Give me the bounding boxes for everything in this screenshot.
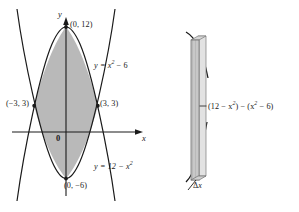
label-strip-height-formula: (12 − x2) − (x2 − 6)	[208, 101, 273, 111]
label-curve-upward-parabola: y = x2 − 6	[94, 60, 128, 70]
figure-container: (0, 12) (−3, 3) (3, 3) (0, −6) 0 x y y =…	[0, 0, 299, 212]
label-curve-downward-parabola: y = 12 − x2	[94, 161, 133, 171]
label-y-axis: y	[58, 10, 62, 19]
left-panel-graph	[12, 9, 143, 201]
curve-eq-exponent-2: 2	[130, 160, 133, 166]
strip-formula-part2-suffix: − 6)	[257, 102, 273, 111]
y-axis-arrowhead	[63, 17, 69, 25]
right-panel-strip-diagram	[186, 32, 208, 190]
curve-eq-prefix-1: y = x	[94, 61, 111, 70]
label-point-top-vertex: (0, 12)	[70, 21, 93, 29]
curve-eq-suffix-1: − 6	[114, 61, 127, 70]
label-point-right-intersection: (3, 3)	[100, 100, 118, 108]
delta-x-variable: x	[198, 181, 202, 190]
strip-formula-part1-prefix: (12 − x	[208, 102, 232, 111]
point-left-intersection	[32, 104, 36, 108]
label-point-left-intersection: (−3, 3)	[6, 100, 29, 108]
strip-formula-part1-suffix: ) − (x	[235, 102, 254, 111]
point-top-vertex	[64, 25, 68, 29]
label-x-axis: x	[142, 134, 146, 143]
label-point-bottom-vertex: (0, −6)	[64, 182, 87, 190]
label-delta-x: Δx	[193, 182, 202, 190]
curve-eq-prefix-2: y = 12 − x	[94, 162, 130, 171]
point-bottom-vertex	[64, 177, 68, 181]
strip-front-face	[191, 40, 199, 180]
label-origin: 0	[56, 134, 60, 143]
